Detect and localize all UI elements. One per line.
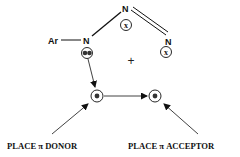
donor-electron (95, 94, 100, 99)
n-left-label: N (83, 36, 90, 46)
lone-pair-to-donor-arrow (88, 59, 95, 87)
acceptor-electron (153, 94, 158, 99)
x-right-substituent: x (161, 47, 172, 58)
n-top-label: N (122, 4, 129, 14)
plus-sign: + (127, 54, 134, 68)
lone-pair-electron-2 (87, 51, 92, 56)
triazene-orbital-diagram: Ar N N N x x + PLACE π DONOR PLACE π ACC… (0, 0, 240, 157)
n-right-label: N (165, 37, 172, 47)
n-n-double-bond-b (133, 7, 168, 32)
acceptor-label: PLACE π ACCEPTOR (128, 141, 215, 151)
x-top-label: x (124, 21, 128, 30)
donor-orbital (91, 90, 103, 102)
donor-label: PLACE π DONOR (7, 141, 78, 151)
ar-label: Ar (48, 36, 58, 46)
lone-pair-electron-1 (83, 51, 88, 56)
x-right-label: x (164, 48, 168, 57)
acceptor-label-pointer (164, 104, 198, 134)
n-n-single-bond (92, 12, 121, 36)
n-n-double-bond-a (131, 10, 166, 35)
donor-label-pointer (52, 104, 88, 134)
acceptor-orbital (149, 90, 161, 102)
lone-pair-orbital (82, 48, 93, 59)
x-top-substituent: x (121, 20, 132, 31)
